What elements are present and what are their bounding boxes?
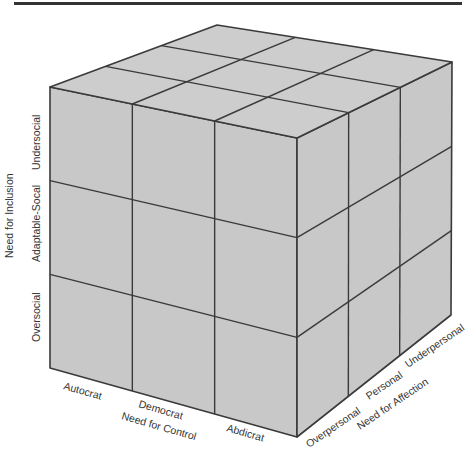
cube-diagram: Need for Inclusion Undersocial Adaptable… [0, 0, 476, 466]
level-oversocial: Oversocial [30, 292, 42, 342]
right-grid-vertical [400, 87, 401, 355]
axis-title-inclusion: Need for Inclusion [3, 173, 15, 258]
level-undersocial: Undersocial [30, 115, 42, 170]
level-adaptable-social: Adaptable-Socal [30, 185, 42, 262]
level-autocrat: Autocrat [62, 379, 103, 401]
